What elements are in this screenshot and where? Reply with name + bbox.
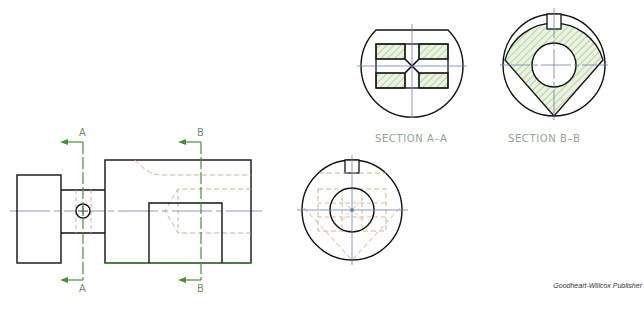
publisher-credit: Goodheart-Willcox Publisher	[553, 282, 642, 289]
technical-drawing	[0, 0, 644, 311]
cutting-plane-b-bottom-label: B	[197, 283, 204, 294]
left-flange	[17, 175, 61, 263]
cutting-plane-a-bottom-label: A	[79, 283, 86, 294]
section-a-title: SECTION A–A	[375, 133, 448, 144]
section-b-title: SECTION B–B	[508, 133, 581, 144]
cutting-plane-b-top-label: B	[197, 127, 204, 138]
section-a-view	[357, 24, 467, 118]
side-view	[297, 155, 408, 265]
cutting-plane-a-top-label: A	[79, 127, 86, 138]
front-view	[10, 160, 262, 263]
section-b-view	[500, 8, 608, 120]
